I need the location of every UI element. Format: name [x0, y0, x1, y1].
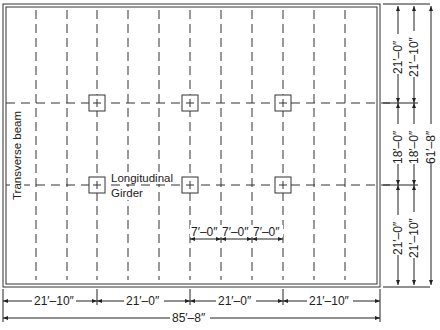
- girder-label: Girder: [111, 187, 143, 199]
- svg-text:21′–10″: 21′–10″: [309, 294, 350, 308]
- svg-text:21′–0″: 21′–0″: [218, 294, 252, 308]
- svg-text:18′–0″: 18′–0″: [407, 130, 421, 164]
- total-length-label: 85′–8″: [172, 311, 206, 325]
- svg-text:21′–0″: 21′–0″: [126, 294, 160, 308]
- svg-text:21′–10″: 21′–10″: [34, 294, 75, 308]
- svg-text:21′–0″: 21′–0″: [391, 40, 405, 74]
- transverse-beam-label: Transverse beam: [11, 111, 23, 200]
- svg-text:21′–10″: 21′–10″: [407, 36, 421, 77]
- svg-text:7′–0″: 7′–0″: [253, 225, 280, 239]
- deck-outline-inner: [6, 7, 377, 284]
- stringer-spacing-dims: 7′–0″ 7′–0″ 7′–0″: [190, 225, 283, 239]
- svg-text:7′–0″: 7′–0″: [191, 225, 218, 239]
- deck-outline-outer: [3, 4, 380, 287]
- bridge-deck-plan: Transverse beam Longitudinal Girder 7′–0…: [0, 0, 440, 330]
- svg-text:7′–0″: 7′–0″: [222, 225, 249, 239]
- total-width-label: 61′–8″: [424, 130, 438, 164]
- bottom-dim-labels: 21′–10″ 21′–0″ 21′–0″ 21′–10″ 85′–8″: [32, 294, 353, 325]
- svg-text:21′–0″: 21′–0″: [391, 221, 405, 255]
- transverse-beam-lines: [6, 103, 395, 185]
- svg-text:21′–10″: 21′–10″: [407, 217, 421, 258]
- longitudinal-label: Longitudinal: [111, 172, 173, 184]
- svg-text:18′–0″: 18′–0″: [391, 130, 405, 164]
